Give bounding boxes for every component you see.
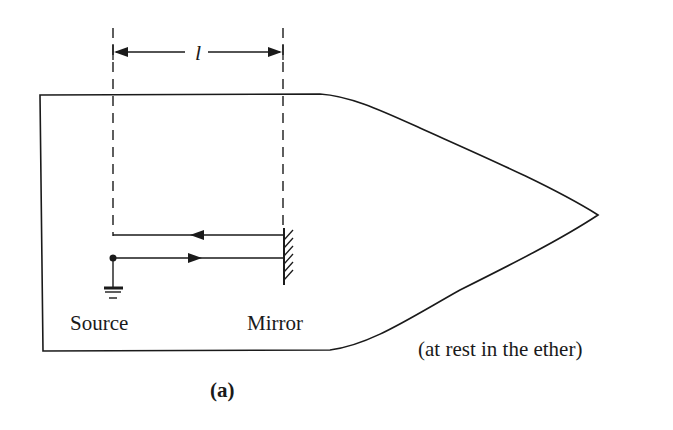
length-label: l	[195, 40, 201, 65]
source-label: Source	[70, 311, 128, 335]
ground-icon	[104, 258, 123, 298]
length-dimension: l	[113, 40, 283, 65]
arrow-left-icon	[190, 230, 204, 240]
return-beam	[113, 230, 283, 240]
frame-note-label: (at rest in the ether)	[418, 337, 582, 361]
outgoing-beam	[110, 253, 285, 263]
mirror-icon	[284, 228, 293, 285]
michelson-ship-diagram: l Source Mirror (at rest in the ether) (…	[0, 0, 673, 430]
arrowhead-left-icon	[114, 47, 128, 57]
arrow-right-icon	[188, 253, 202, 263]
mirror-label: Mirror	[247, 311, 303, 335]
figure-label: (a)	[210, 378, 235, 402]
arrowhead-right-icon	[268, 47, 282, 57]
